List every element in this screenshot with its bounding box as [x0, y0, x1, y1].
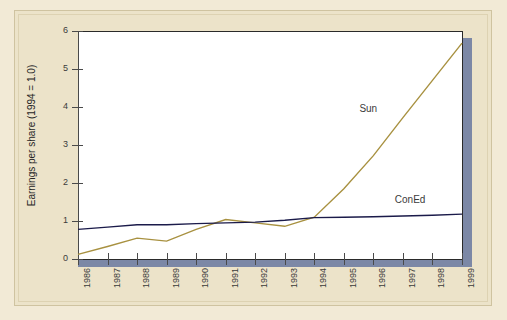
- series-line-sun: [78, 43, 462, 254]
- series-label-coned: ConEd: [395, 194, 426, 205]
- line-chart: Earnings per share (1994 = 1.0) 0123456 …: [0, 0, 507, 320]
- series-label-sun: Sun: [359, 103, 377, 114]
- series-line-coned: [78, 214, 462, 229]
- chart-page: Earnings per share (1994 = 1.0) 0123456 …: [0, 0, 507, 320]
- series-lines: [0, 0, 507, 320]
